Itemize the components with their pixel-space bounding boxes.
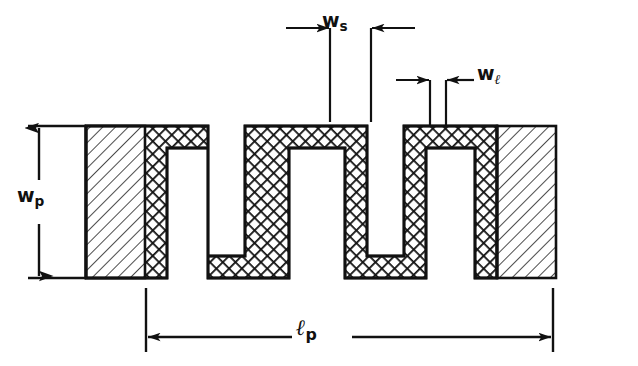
wp-label-sub: p: [35, 193, 45, 209]
ws-label-base: w: [322, 9, 340, 31]
lp-label: ℓp: [296, 316, 317, 343]
wp-label: wp: [17, 186, 44, 209]
right-contact-pad: [497, 126, 556, 278]
ws-label: ws: [322, 11, 348, 34]
lp-label-base: ℓ: [296, 314, 305, 340]
left-contact-pad: [86, 126, 145, 278]
ws-label-sub: s: [340, 18, 348, 34]
wl-label-sub: ℓ: [495, 71, 501, 87]
dimension-wl: [396, 80, 474, 126]
wp-label-base: w: [17, 184, 35, 206]
lp-label-sub: p: [305, 325, 316, 344]
figure-canvas: ws wℓ wp ℓp: [0, 0, 638, 366]
technical-diagram: [0, 0, 638, 366]
wl-label-base: w: [477, 62, 495, 84]
dimension-ws: [286, 28, 415, 122]
dimension-lp: [146, 288, 553, 352]
wl-label: wℓ: [477, 64, 500, 87]
